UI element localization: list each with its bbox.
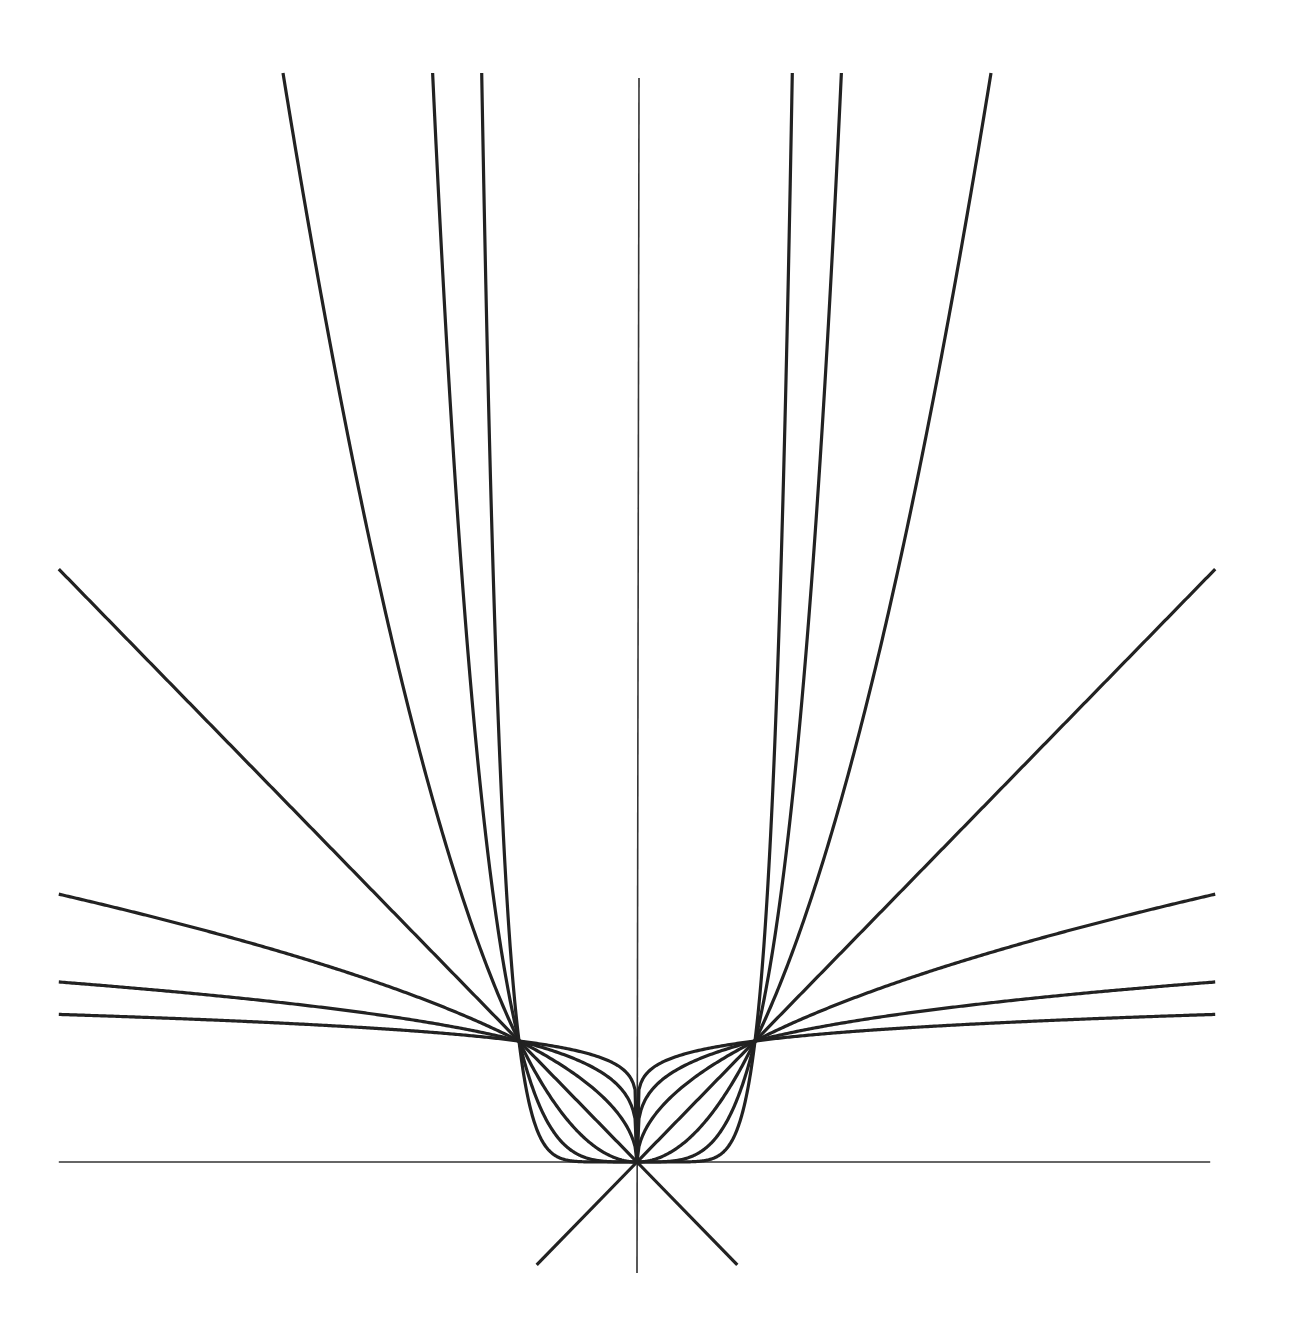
line-y-equals-neg-x-extension [637, 1162, 737, 1265]
power-function-plot [0, 0, 1291, 1342]
line-y-equals-x-extension [537, 1162, 637, 1265]
